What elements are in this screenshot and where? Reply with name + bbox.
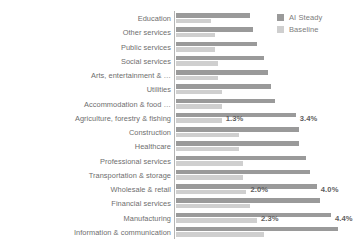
category-label: Construction [129, 128, 171, 137]
data-label-ai-steady: 3.4% [300, 113, 318, 122]
bar-baseline[interactable] [176, 90, 222, 94]
legend-swatch-ai-steady [277, 14, 284, 21]
chart-row: Utilities [0, 82, 360, 96]
category-label: Agriculture, forestry & fishing [75, 113, 171, 122]
data-label-baseline: 2.0% [250, 185, 268, 194]
category-label: Transportation & storage [89, 170, 171, 179]
legend-entry-baseline[interactable]: Baseline [277, 26, 322, 34]
chart-row: Wholesale & retail2.0%4.0% [0, 182, 360, 196]
legend-entry-ai-steady[interactable]: AI Steady [277, 14, 322, 22]
chart-row: Arts, entertainment & … [0, 68, 360, 82]
category-label: Professional services [100, 156, 171, 165]
bar-ai-steady[interactable] [176, 99, 275, 103]
category-label: Public services [121, 42, 171, 51]
bar-baseline[interactable] [176, 61, 218, 65]
category-label: Manufacturing [124, 213, 171, 222]
category-label: Wholesale & retail [111, 185, 171, 194]
category-label: Education [138, 14, 171, 23]
category-label: Healthcare [135, 142, 171, 151]
bar-ai-steady[interactable] [176, 227, 338, 231]
bar-ai-steady[interactable] [176, 156, 306, 160]
bar-group [176, 225, 360, 239]
bar-ai-steady[interactable] [176, 27, 253, 31]
bar-chart: AI Steady Baseline EducationOther servic… [0, 0, 360, 246]
bar-group [176, 125, 360, 139]
data-label-ai-steady: 4.4% [335, 213, 353, 222]
bar-group [176, 11, 360, 25]
legend-swatch-baseline [277, 26, 284, 33]
chart-row: Public services [0, 40, 360, 54]
bar-ai-steady[interactable] [176, 184, 317, 188]
chart-row: Manufacturing2.3%4.4% [0, 211, 360, 225]
legend-label-ai-steady: AI Steady [289, 14, 322, 22]
chart-row: Financial services [0, 196, 360, 210]
bar-baseline[interactable] [176, 218, 257, 222]
bar-group [176, 40, 360, 54]
bar-group [176, 25, 360, 39]
chart-row: Information & communication [0, 225, 360, 239]
bar-baseline[interactable] [176, 133, 239, 137]
bar-baseline[interactable] [176, 175, 243, 179]
bar-ai-steady[interactable] [176, 84, 271, 88]
bar-group [176, 139, 360, 153]
category-label: Arts, entertainment & … [91, 71, 171, 80]
bar-group [176, 111, 360, 125]
chart-legend: AI Steady Baseline [277, 14, 322, 33]
bar-baseline[interactable] [176, 33, 215, 37]
bar-baseline[interactable] [176, 161, 243, 165]
bar-baseline[interactable] [176, 190, 246, 194]
chart-row: Accommodation & food … [0, 97, 360, 111]
chart-row: Professional services [0, 154, 360, 168]
legend-label-baseline: Baseline [289, 26, 319, 34]
bar-ai-steady[interactable] [176, 42, 257, 46]
bar-group [176, 168, 360, 182]
category-label: Social services [121, 56, 171, 65]
bar-ai-steady[interactable] [176, 127, 299, 131]
bar-ai-steady[interactable] [176, 70, 268, 74]
bar-group [176, 54, 360, 68]
bar-baseline[interactable] [176, 104, 222, 108]
bar-baseline[interactable] [176, 76, 218, 80]
category-label: Other services [123, 28, 171, 37]
chart-row: Social services [0, 54, 360, 68]
chart-row: Agriculture, forestry & fishing1.3%3.4% [0, 111, 360, 125]
plot-area: EducationOther servicesPublic servicesSo… [0, 11, 360, 239]
bar-group [176, 97, 360, 111]
data-label-ai-steady: 4.0% [321, 185, 339, 194]
bar-ai-steady[interactable] [176, 170, 310, 174]
bar-baseline[interactable] [176, 147, 239, 151]
bar-ai-steady[interactable] [176, 141, 299, 145]
chart-row: Transportation & storage [0, 168, 360, 182]
bar-group [176, 82, 360, 96]
bar-baseline[interactable] [176, 19, 211, 23]
bar-group [176, 196, 360, 210]
bar-baseline[interactable] [176, 204, 250, 208]
category-label: Utilities [147, 85, 171, 94]
bar-ai-steady[interactable] [176, 213, 331, 217]
bar-baseline[interactable] [176, 118, 222, 122]
category-label: Information & communication [74, 227, 171, 236]
bar-baseline[interactable] [176, 232, 264, 236]
category-label: Accommodation & food … [84, 99, 171, 108]
bar-ai-steady[interactable] [176, 198, 320, 202]
chart-row: Construction [0, 125, 360, 139]
bar-group [176, 68, 360, 82]
data-label-baseline: 2.3% [261, 213, 279, 222]
chart-row: Healthcare [0, 139, 360, 153]
bar-ai-steady[interactable] [176, 56, 264, 60]
category-label: Financial services [111, 199, 171, 208]
bar-baseline[interactable] [176, 47, 215, 51]
bar-group [176, 154, 360, 168]
data-label-baseline: 1.3% [226, 113, 244, 122]
bar-ai-steady[interactable] [176, 13, 250, 17]
